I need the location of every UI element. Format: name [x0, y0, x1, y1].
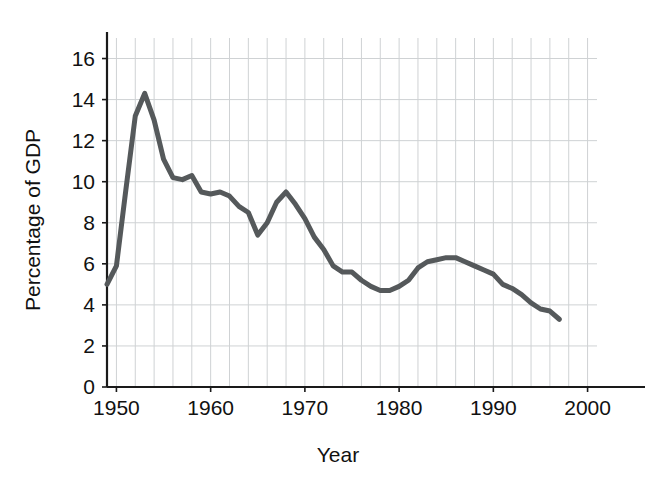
x-tick-label: 1970	[282, 396, 329, 419]
y-tick-label: 2	[83, 334, 95, 357]
y-tick-label: 6	[83, 252, 95, 275]
y-tick-label: 10	[72, 170, 95, 193]
y-tick-label: 14	[72, 88, 96, 111]
y-tick-label: 16	[72, 47, 95, 70]
x-tick-label: 1990	[470, 396, 517, 419]
chart-figure: 195019601970198019902000 0246810121416 Y…	[0, 0, 656, 495]
x-tick-label: 1950	[93, 396, 140, 419]
x-tick-label: 2000	[564, 396, 611, 419]
y-axis-title: Percentage of GDP	[21, 129, 44, 311]
y-tick-label: 0	[83, 375, 95, 398]
x-tick-label: 1960	[187, 396, 234, 419]
line-chart: 195019601970198019902000 0246810121416 Y…	[0, 0, 656, 495]
y-tick-label: 12	[72, 129, 95, 152]
x-tick-label: 1980	[376, 396, 423, 419]
y-tick-label: 8	[83, 211, 95, 234]
chart-background	[0, 0, 656, 495]
y-tick-label: 4	[83, 293, 95, 316]
x-axis-title: Year	[317, 443, 359, 466]
